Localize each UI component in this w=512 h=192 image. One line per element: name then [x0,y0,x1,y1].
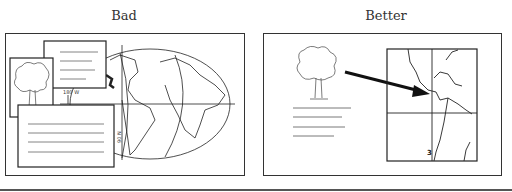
tree-icon [297,46,336,99]
map-inset [387,49,477,161]
map-marker-label: 3 [427,149,432,157]
better-illustration: 3 [0,0,512,192]
caption-lines [293,108,351,136]
bottom-rule [0,189,512,191]
